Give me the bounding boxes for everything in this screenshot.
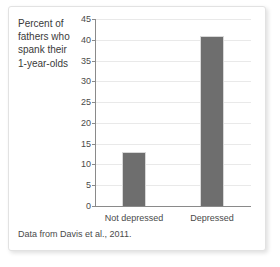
y-axis-tick-mark <box>92 81 95 82</box>
gridline <box>95 123 251 124</box>
gridline <box>95 102 251 103</box>
gridline <box>95 19 251 20</box>
y-axis-tick-mark <box>92 185 95 186</box>
y-axis-tick-label: 20 <box>81 118 91 128</box>
y-axis-tick-label: 40 <box>81 35 91 45</box>
y-axis-tick-label: 30 <box>81 76 91 86</box>
y-axis-tick-mark <box>92 123 95 124</box>
y-axis-tick-label: 25 <box>81 97 91 107</box>
y-axis-tick-mark <box>92 144 95 145</box>
y-axis-line <box>95 19 96 207</box>
y-axis-tick-mark <box>92 61 95 62</box>
x-axis-tick-label: Depressed <box>190 213 234 223</box>
y-axis-tick-label: 35 <box>81 56 91 66</box>
source-caption: Data from Davis et al., 2011. <box>18 229 131 239</box>
gridline <box>95 40 251 41</box>
y-axis-tick-label: 5 <box>86 180 91 190</box>
x-axis-line <box>95 206 251 207</box>
bar <box>122 152 146 206</box>
y-axis-tick-label: 45 <box>81 14 91 24</box>
gridlines <box>95 19 251 207</box>
y-axis-tick-mark <box>92 19 95 20</box>
y-axis-tick-mark <box>92 164 95 165</box>
plot-area: 051015202530354045 Not depressedDepresse… <box>95 19 251 207</box>
gridline <box>95 164 251 165</box>
y-axis-tick-label: 0 <box>86 201 91 211</box>
y-axis-tick-label: 15 <box>81 139 91 149</box>
figure-card: Percent of fathers who spank their 1-yea… <box>8 6 266 251</box>
y-axis-tick-mark <box>92 206 95 207</box>
gridline <box>95 61 251 62</box>
gridline <box>95 185 251 186</box>
bar <box>200 36 224 206</box>
x-axis-tick-label: Not depressed <box>105 213 164 223</box>
y-axis-tick-mark <box>92 40 95 41</box>
gridline <box>95 81 251 82</box>
y-axis-tick-label: 10 <box>81 159 91 169</box>
y-axis-tick-mark <box>92 102 95 103</box>
gridline <box>95 144 251 145</box>
